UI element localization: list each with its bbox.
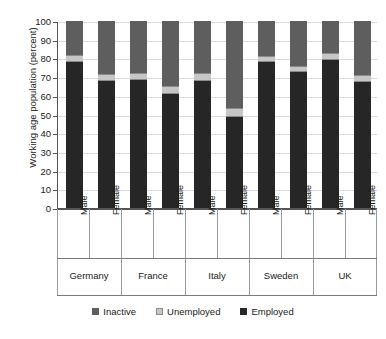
stacked-bar[interactable] (162, 21, 179, 208)
y-tick-label: 0 (25, 204, 51, 214)
y-tick-label: 40 (25, 129, 51, 139)
bar-segment-employed (194, 81, 211, 208)
gender-axis-band: MaleFemaleMaleFemaleMaleFemaleMaleFemale… (57, 209, 377, 259)
stacked-bar[interactable] (226, 21, 243, 208)
bar-segment-employed (66, 62, 83, 208)
axis-separator (376, 209, 377, 258)
country-axis-label: UK (313, 270, 377, 281)
gender-axis-label: Male (194, 213, 210, 257)
legend-item[interactable]: Unemployed (156, 306, 220, 317)
stacked-bar-chart: Working age population (percent) 1009080… (0, 0, 386, 339)
legend-label: Unemployed (167, 306, 220, 317)
gender-axis-label: Female (226, 213, 242, 257)
bar-segment-employed (322, 60, 339, 208)
axis-separator (281, 209, 282, 258)
gender-axis-label: Female (354, 213, 370, 257)
stacked-bar[interactable] (98, 21, 115, 208)
country-axis-label: France (121, 270, 185, 281)
bar-segment-inactive (130, 21, 147, 73)
gender-axis-label: Male (66, 213, 82, 257)
y-tick-label: 10 (25, 185, 51, 195)
bar-segment-inactive (194, 21, 211, 73)
axis-separator (217, 209, 218, 258)
bar-series-container (58, 22, 377, 208)
bar-segment-unemployed (226, 108, 243, 117)
bar-segment-employed (258, 62, 275, 208)
y-tick-label: 60 (25, 92, 51, 102)
gender-axis-label: Female (290, 213, 306, 257)
stacked-bar[interactable] (322, 21, 339, 208)
stacked-bar[interactable] (194, 21, 211, 208)
bar-segment-inactive (226, 21, 243, 108)
bar-segment-inactive (162, 21, 179, 86)
bar-segment-employed (130, 80, 147, 208)
country-axis-band: GermanyFranceItalySwedenUK (57, 259, 377, 296)
y-tick-label: 20 (25, 167, 51, 177)
bar-segment-inactive (258, 21, 275, 56)
y-tick-label: 90 (25, 36, 51, 46)
gender-axis-label: Male (322, 213, 338, 257)
y-tick-label: 80 (25, 54, 51, 64)
stacked-bar[interactable] (258, 21, 275, 208)
bar-segment-unemployed (194, 73, 211, 80)
legend-item[interactable]: Employed (240, 306, 293, 317)
axis-separator (153, 209, 154, 258)
axis-separator (345, 209, 346, 258)
gender-axis-label: Female (98, 213, 114, 257)
bar-segment-inactive (66, 21, 83, 55)
y-tick-label: 30 (25, 148, 51, 158)
country-axis-label: Germany (57, 270, 121, 281)
legend-item[interactable]: Inactive (92, 306, 136, 317)
gender-axis-label: Female (162, 213, 178, 257)
axis-separator (313, 259, 314, 295)
axis-separator (121, 209, 122, 258)
axis-separator (249, 259, 250, 295)
axis-separator (249, 209, 250, 258)
bar-segment-inactive (98, 21, 115, 74)
y-tick-label: 50 (25, 111, 51, 121)
gender-axis-label: Male (130, 213, 146, 257)
stacked-bar[interactable] (66, 21, 83, 208)
gender-axis-label: Male (258, 213, 274, 257)
legend-swatch-inactive (92, 308, 99, 315)
country-axis-label: Italy (185, 270, 249, 281)
stacked-bar[interactable] (354, 21, 371, 208)
axis-separator (185, 209, 186, 258)
axis-separator (57, 259, 58, 295)
plot-area (57, 22, 377, 209)
y-tick-label: 70 (25, 73, 51, 83)
axis-separator (121, 259, 122, 295)
bar-segment-inactive (290, 21, 307, 66)
bar-segment-inactive (354, 21, 371, 75)
axis-separator (376, 259, 377, 295)
axis-separator (57, 209, 58, 258)
bar-segment-unemployed (66, 55, 83, 62)
stacked-bar[interactable] (290, 21, 307, 208)
y-tick-label: 100 (25, 17, 51, 27)
chart-legend: InactiveUnemployedEmployed (0, 306, 386, 317)
axis-separator (89, 209, 90, 258)
legend-swatch-unemployed (156, 308, 163, 315)
axis-separator (313, 209, 314, 258)
stacked-bar[interactable] (130, 21, 147, 208)
bar-segment-unemployed (162, 86, 179, 94)
country-axis-label: Sweden (249, 270, 313, 281)
legend-label: Inactive (103, 306, 136, 317)
legend-label: Employed (251, 306, 293, 317)
bar-segment-inactive (322, 21, 339, 53)
axis-separator (185, 259, 186, 295)
legend-swatch-employed (240, 308, 247, 315)
bar-segment-unemployed (322, 53, 339, 60)
